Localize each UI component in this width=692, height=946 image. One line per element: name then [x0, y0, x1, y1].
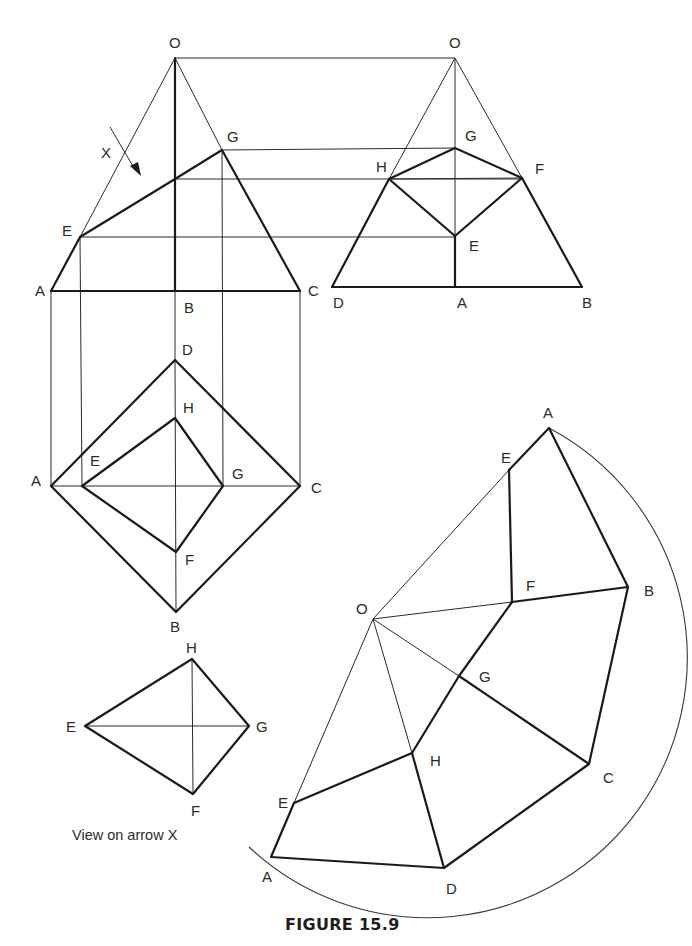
label-D: D [333, 294, 344, 311]
plan-view: D H A E G C F B [31, 341, 322, 635]
edge-HD [332, 179, 389, 287]
label-A: A [31, 472, 41, 489]
label-E-top: E [501, 449, 511, 466]
fold-GC [459, 676, 589, 764]
label-D: D [446, 880, 457, 897]
fold-HD [412, 753, 444, 868]
label-A-bottom: A [262, 868, 272, 885]
technical-drawing: X O G E A B C O G H F E D A B D H A E [0, 0, 692, 946]
arrow-x-view: H E G F View on arrow X [66, 639, 268, 843]
label-B: B [184, 299, 194, 316]
label-H: H [183, 399, 194, 416]
cut-GH [412, 676, 459, 753]
generator-OE [373, 470, 509, 619]
edge-OF [455, 58, 522, 178]
development-outline [271, 428, 628, 868]
label-H: H [186, 639, 197, 656]
figure-caption: FIGURE 15.9 [285, 915, 400, 934]
line-DB [175, 360, 176, 612]
arrow-x-label: X [101, 144, 111, 161]
label-F: F [535, 160, 544, 177]
label-A: A [35, 282, 45, 299]
label-B: B [644, 582, 654, 599]
edge-OG [175, 58, 222, 150]
projector-G-down [222, 150, 223, 486]
label-D: D [182, 341, 193, 358]
label-O: O [169, 34, 181, 51]
label-E-bottom: E [278, 794, 288, 811]
section-HGFE [82, 418, 223, 552]
label-B: B [170, 618, 180, 635]
side-elevation: O G H F E D A B [332, 34, 592, 311]
edge-OH [389, 58, 455, 179]
arrow-view-caption: View on arrow X [72, 827, 178, 843]
edge-FB [522, 178, 582, 287]
development-arc [249, 428, 687, 918]
label-G: G [256, 718, 268, 735]
label-E: E [62, 222, 72, 239]
cut-HE [294, 753, 412, 803]
cut-FG [459, 602, 512, 676]
label-A-top: A [543, 404, 553, 421]
label-A: A [457, 294, 467, 311]
arrow-x-shaft [110, 127, 134, 168]
label-G: G [232, 465, 244, 482]
generator-OF [373, 602, 512, 619]
label-E: E [469, 237, 479, 254]
label-G: G [479, 668, 491, 685]
label-O: O [449, 34, 461, 51]
generator-OH [373, 619, 412, 753]
label-H: H [430, 752, 441, 769]
line-HF [192, 659, 193, 794]
edge-OE-hidden [80, 58, 175, 237]
generator-OG [373, 619, 459, 676]
label-F: F [526, 577, 535, 594]
label-C: C [311, 479, 322, 496]
label-C: C [603, 769, 614, 786]
label-F: F [185, 551, 194, 568]
label-E: E [66, 718, 76, 735]
label-H: H [376, 158, 387, 175]
label-B: B [582, 294, 592, 311]
label-E: E [90, 452, 100, 469]
label-G: G [465, 127, 477, 144]
front-elevation: X O G E A B C [35, 34, 522, 486]
label-F: F [191, 802, 200, 819]
label-G: G [227, 128, 239, 145]
projector-E-down [80, 237, 82, 486]
cut-EF [509, 470, 512, 602]
projector-G [222, 148, 455, 150]
label-C: C [308, 282, 319, 299]
label-O: O [356, 600, 368, 617]
